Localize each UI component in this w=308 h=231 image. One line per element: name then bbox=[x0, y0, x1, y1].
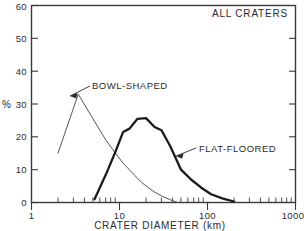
series-label-bowl-shaped: BOWL-SHAPED bbox=[92, 80, 168, 91]
flat-floored-annotation: FLAT-FLOORED bbox=[176, 143, 276, 159]
y-tick-label-0: 0 bbox=[21, 197, 27, 208]
y-tick-label-10: 10 bbox=[16, 164, 27, 175]
bowl-shaped-annotation: BOWL-SHAPED bbox=[70, 80, 168, 98]
x-tick-label-1000: 1000 bbox=[282, 210, 305, 221]
x-axis-title: CRATER DIAMETER (km) bbox=[94, 220, 226, 231]
y-axis-ticks bbox=[32, 6, 39, 203]
plot-frame bbox=[32, 6, 296, 203]
crater-diameter-chart: 0 10 20 30 40 50 60 % bbox=[0, 0, 308, 231]
chart-page: 0 10 20 30 40 50 60 % bbox=[0, 0, 308, 231]
x-axis-major-ticks bbox=[32, 203, 296, 211]
series-label-flat-floored: FLAT-FLOORED bbox=[199, 143, 276, 154]
x-tick-label-1: 1 bbox=[29, 210, 35, 221]
y-tick-label-60: 60 bbox=[16, 1, 27, 12]
y-tick-label-20: 20 bbox=[16, 131, 27, 142]
y-tick-label-50: 50 bbox=[16, 33, 27, 44]
y-tick-label-30: 30 bbox=[16, 99, 27, 110]
chart-title: ALL CRATERS bbox=[212, 8, 288, 19]
y-axis-title: % bbox=[2, 99, 12, 110]
y-tick-label-40: 40 bbox=[16, 66, 27, 77]
y-axis-ticks-right bbox=[289, 38, 296, 169]
series-flat-floored-curve bbox=[95, 118, 234, 201]
